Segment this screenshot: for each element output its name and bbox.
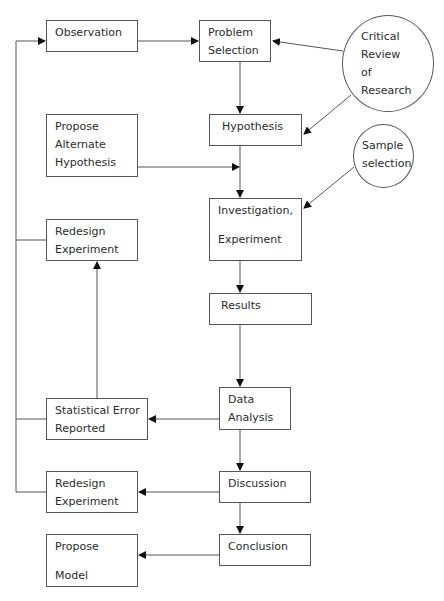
node-label: Results	[221, 297, 311, 315]
node-observation: Observation	[46, 20, 138, 52]
node-redesign-experiment-upper: Redesign Experiment	[46, 219, 138, 261]
node-label: Selection	[208, 42, 270, 60]
node-label: Propose	[55, 118, 137, 136]
node-redesign-experiment-lower: Redesign Experiment	[46, 471, 138, 513]
node-results: Results	[209, 293, 312, 325]
node-propose-model: Propose Model	[46, 534, 138, 587]
node-label: Experiment	[55, 241, 137, 259]
node-critical-review: Critical Review of Research	[342, 15, 434, 112]
node-propose-alternate-hypothesis: Propose Alternate Hypothesis	[46, 114, 138, 177]
node-label: Conclusion	[228, 538, 310, 556]
node-label: Observation	[55, 24, 137, 42]
node-label: Research	[361, 82, 433, 100]
node-label: Redesign	[55, 223, 137, 241]
node-sample-selection: Sample selection	[353, 124, 414, 188]
node-label: Model	[55, 567, 137, 585]
node-conclusion: Conclusion	[219, 534, 311, 566]
node-label: Investigation,	[218, 202, 301, 220]
node-hypothesis: Hypothesis	[209, 114, 302, 146]
node-label: Reported	[55, 420, 147, 438]
node-label: Propose	[55, 538, 137, 556]
node-label: Discussion	[228, 475, 310, 493]
node-label: Experiment	[55, 493, 137, 511]
node-label: Experiment	[218, 231, 301, 249]
node-label: Hypothesis	[55, 154, 137, 172]
node-label: Statistical Error	[55, 402, 147, 420]
node-label: selection	[362, 155, 413, 173]
node-investigation-experiment: Investigation, Experiment	[209, 198, 302, 261]
node-label: Review	[361, 46, 433, 64]
node-label: of	[361, 64, 433, 82]
node-label: Analysis	[228, 409, 290, 427]
node-label: Hypothesis	[222, 118, 301, 136]
figure-caption-clipped	[16, 596, 356, 601]
node-discussion: Discussion	[219, 471, 311, 503]
node-label: Problem	[208, 24, 270, 42]
node-label: Alternate	[55, 136, 137, 154]
node-data-analysis: Data Analysis	[219, 387, 291, 430]
node-label: Sample	[362, 137, 413, 155]
node-statistical-error-reported: Statistical Error Reported	[46, 398, 148, 440]
node-label: Redesign	[55, 475, 137, 493]
node-label: Critical	[361, 28, 433, 46]
node-problem-selection: Problem Selection	[199, 20, 271, 62]
node-label: Data	[228, 391, 290, 409]
